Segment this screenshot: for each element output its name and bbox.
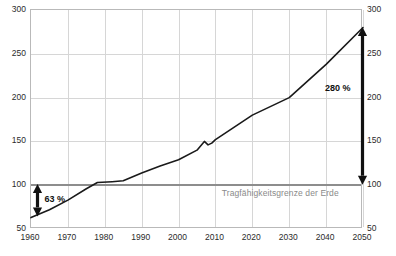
x-tick-2040: 2040 xyxy=(316,232,335,242)
y-tick-left-300: 300 xyxy=(12,4,26,14)
x-tick-1960: 1960 xyxy=(21,232,40,242)
deficit-arrow-1960 xyxy=(31,184,44,216)
x-tick-1980: 1980 xyxy=(94,232,113,242)
y-tick-left-200: 200 xyxy=(12,92,26,102)
x-tick-2020: 2020 xyxy=(242,232,261,242)
x-tick-2030: 2030 xyxy=(279,232,298,242)
y-tick-left-50: 50 xyxy=(17,223,26,233)
overshoot-arrow-2050 xyxy=(356,27,369,185)
x-tick-1970: 1970 xyxy=(57,232,76,242)
y-tick-right-200: 200 xyxy=(367,92,381,102)
overshoot-percent-label: 280 % xyxy=(325,83,351,93)
y-tick-right-100: 100 xyxy=(367,179,381,189)
x-tick-1990: 1990 xyxy=(131,232,150,242)
chart-container: Tragfähigkeitsgrenze der Erde 1960197019… xyxy=(0,0,396,256)
y-tick-right-300: 300 xyxy=(367,4,381,14)
y-tick-left-250: 250 xyxy=(12,48,26,58)
carrying-capacity-label: Tragfähigkeitsgrenze der Erde xyxy=(222,188,339,198)
y-tick-right-250: 250 xyxy=(367,48,381,58)
x-tick-2000: 2000 xyxy=(168,232,187,242)
y-tick-left-100: 100 xyxy=(12,179,26,189)
y-tick-right-50: 50 xyxy=(367,223,376,233)
y-tick-right-150: 150 xyxy=(367,135,381,145)
deficit-percent-label: 63 % xyxy=(44,194,65,204)
x-tick-2010: 2010 xyxy=(205,232,224,242)
x-tick-2050: 2050 xyxy=(353,232,372,242)
y-tick-left-150: 150 xyxy=(12,135,26,145)
